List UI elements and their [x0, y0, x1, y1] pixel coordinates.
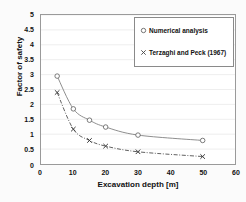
legend-label-0: Numerical analysis [149, 27, 208, 34]
x-tick-label: 10 [63, 169, 83, 176]
legend-entry-numerical-analysis: Numerical analysis [139, 26, 208, 35]
x-tick-label: 30 [128, 169, 148, 176]
circle-open-icon [139, 26, 148, 35]
y-tick-label: 0 [6, 162, 34, 169]
x-tick-label: 0 [30, 169, 50, 176]
y-tick-label: 0.5 [6, 146, 34, 153]
x-tick-label: 40 [161, 169, 181, 176]
legend: Numerical analysis Terzaghi and Peck (19… [134, 17, 234, 67]
x-axis-title: Excavation depth [m] [40, 180, 236, 189]
y-axis-title: Factor of safety [15, 7, 24, 127]
legend-label-1: Terzaghi and Peck (1967) [149, 49, 226, 56]
chart-figure: 00.511.522.533.544.55 0102030405060 Exca… [0, 0, 246, 202]
x-tick-label: 60 [226, 169, 246, 176]
x-tick-label: 20 [95, 169, 115, 176]
x-tick-label: 50 [193, 169, 213, 176]
legend-entry-terzaghi-and-peck: Terzaghi and Peck (1967) [139, 48, 226, 57]
x-marker-icon [139, 48, 148, 57]
y-tick-label: 1 [6, 131, 34, 138]
